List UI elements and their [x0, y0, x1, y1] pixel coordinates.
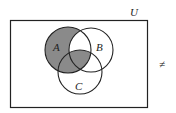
- label-c: C: [75, 80, 83, 92]
- not-equal-symbol: ≠: [159, 58, 165, 70]
- label-a: A: [52, 41, 60, 53]
- label-b: B: [96, 41, 103, 53]
- venn-diagram: A B C U ≠: [0, 0, 176, 113]
- label-universe: U: [130, 6, 139, 18]
